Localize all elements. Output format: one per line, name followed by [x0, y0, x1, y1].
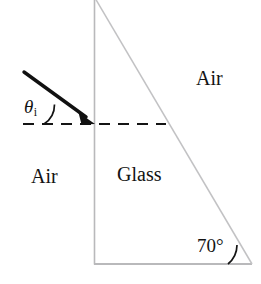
label-theta-incidence-angle: θi [24, 97, 37, 118]
label-glass-region: Glass [117, 164, 161, 184]
apex-angle-arc [228, 245, 237, 264]
label-air-top-region: Air [196, 68, 223, 88]
theta-symbol: θ [24, 96, 33, 117]
incident-ray-arrowhead [79, 113, 96, 125]
theta-subscript-i: i [34, 105, 37, 119]
label-apex-angle-70-degrees: 70° [197, 236, 224, 255]
optics-diagram-figure: Air Air Glass θi 70° [0, 0, 261, 284]
prism-hypotenuse-face [95, 0, 252, 264]
label-air-left-region: Air [31, 166, 58, 186]
theta-i-angle-arc [44, 105, 55, 125]
